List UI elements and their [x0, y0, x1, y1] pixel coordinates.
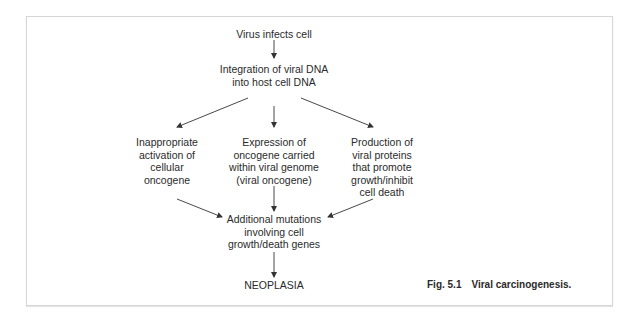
node-text: activation of	[136, 149, 198, 162]
node-cellular-oncogene: Inappropriate activation of cellular onc…	[136, 136, 198, 186]
flow-arrows	[0, 0, 638, 319]
node-text: into host cell DNA	[220, 76, 329, 89]
node-text: Production of	[351, 136, 413, 149]
node-text: within viral genome	[229, 161, 319, 174]
node-text: that promote	[351, 161, 413, 174]
node-text: involving cell	[227, 226, 322, 239]
arrow-viral-proteins-to-mutations	[328, 199, 373, 217]
node-text: Additional mutations	[227, 213, 322, 226]
node-text: growth/death genes	[227, 238, 322, 251]
node-text: Inappropriate	[136, 136, 198, 149]
node-integration: Integration of viral DNA into host cell …	[220, 63, 329, 88]
node-neoplasia: NEOPLASIA	[244, 279, 304, 292]
node-text: Virus infects cell	[236, 28, 312, 41]
caption-number: Fig. 5.1	[427, 279, 461, 290]
node-viral-proteins: Production of viral proteins that promot…	[351, 136, 413, 199]
node-additional-mutations: Additional mutations involving cell grow…	[227, 213, 322, 251]
caption-title: Viral carcinogenesis.	[471, 279, 571, 290]
figure-caption: Fig. 5.1Viral carcinogenesis.	[427, 279, 571, 290]
arrow-integration-to-cellular	[177, 98, 248, 127]
node-text: Expression of	[229, 136, 319, 149]
node-text: viral proteins	[351, 149, 413, 162]
arrow-integration-to-viral-proteins	[301, 98, 373, 127]
node-text: oncogene	[136, 174, 198, 187]
node-text: (viral oncogene)	[229, 174, 319, 187]
node-text: Integration of viral DNA	[220, 63, 329, 76]
arrow-cellular-to-mutations	[177, 199, 222, 217]
node-virus-infects-cell: Virus infects cell	[236, 28, 312, 41]
node-text: oncogene carried	[229, 149, 319, 162]
node-text: growth/inhibit	[351, 174, 413, 187]
node-viral-oncogene: Expression of oncogene carried within vi…	[229, 136, 319, 186]
node-text: cellular	[136, 161, 198, 174]
node-text: NEOPLASIA	[244, 279, 304, 292]
node-text: cell death	[351, 186, 413, 199]
